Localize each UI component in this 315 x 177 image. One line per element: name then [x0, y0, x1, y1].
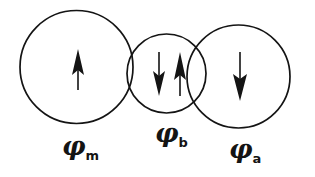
arrow-down-phi-b	[153, 52, 165, 96]
figure-canvas: φm φb φa	[0, 0, 315, 177]
arrow-up-phi-m	[72, 49, 84, 90]
arrow-down-phi-a	[233, 52, 247, 101]
label-phi-b: φb	[155, 120, 188, 146]
phi-subscript-m: m	[86, 148, 100, 163]
phi-symbol-a: φ	[229, 134, 253, 164]
label-phi-m: φm	[62, 133, 99, 159]
phi-symbol-b: φ	[155, 118, 179, 148]
diagram-svg	[0, 0, 315, 177]
phi-subscript-a: a	[253, 151, 262, 166]
phi-subscript-b: b	[179, 135, 188, 150]
circle-phi-a	[187, 25, 290, 128]
label-phi-a: φa	[229, 136, 261, 162]
arrow-up-phi-b	[174, 52, 186, 96]
phi-symbol-m: φ	[62, 131, 86, 161]
